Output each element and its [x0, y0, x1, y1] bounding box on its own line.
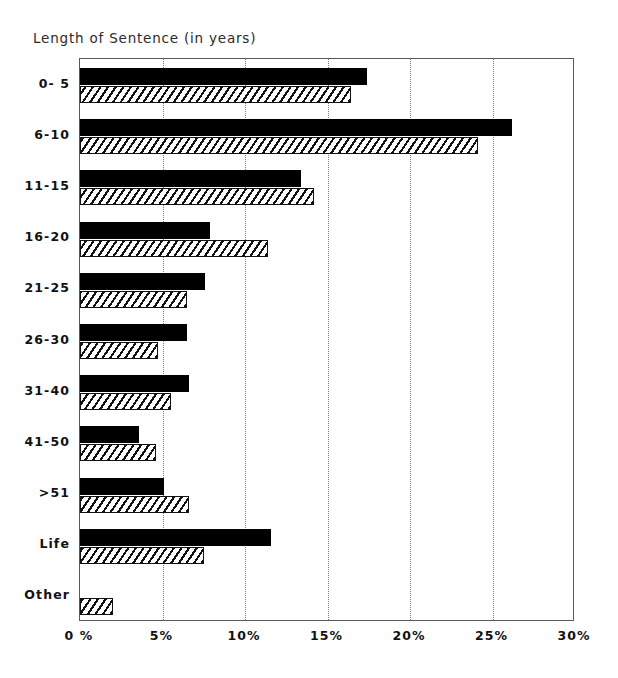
y-axis-tick-label: 11-15 [0, 178, 70, 193]
bar-series-hatched [80, 240, 268, 257]
bar-series-hatched [80, 291, 187, 308]
y-axis-tick-label: 21-25 [0, 280, 70, 295]
x-axis-tick-label: 25% [475, 628, 508, 643]
bar-series-solid [80, 375, 189, 392]
bar-chart: Length of Sentence (in years) 0- 56-1011… [0, 0, 618, 678]
bar-series-hatched [80, 137, 478, 154]
y-axis-tick-label: 6-10 [0, 127, 70, 142]
bar-series-hatched [80, 547, 204, 564]
x-axis-tick-label: 30% [557, 628, 590, 643]
bar-series-solid [80, 324, 187, 341]
bar-series-hatched [80, 444, 156, 461]
x-axis-tick-label: 0 % [65, 628, 94, 643]
plot-area [79, 58, 574, 621]
x-axis-tick-label: 10% [227, 628, 260, 643]
bar-series-hatched [80, 393, 171, 410]
y-axis-tick-label: >51 [0, 485, 70, 500]
y-axis-tick-label: 16-20 [0, 229, 70, 244]
bar-series-solid [80, 222, 210, 239]
bar-series-solid [80, 170, 301, 187]
bar-series-hatched [80, 188, 314, 205]
y-axis-labels: 0- 56-1011-1516-2021-2526-3031-4041-50>5… [0, 58, 70, 621]
x-axis-tick-label: 20% [392, 628, 425, 643]
x-axis-tick-label: 15% [310, 628, 343, 643]
bar-series-solid [80, 529, 271, 546]
y-axis-tick-label: 0- 5 [0, 76, 70, 91]
bar-series-solid [80, 478, 164, 495]
chart-title: Length of Sentence (in years) [33, 30, 256, 46]
bar-series-solid [80, 426, 139, 443]
y-axis-tick-label: Life [0, 536, 70, 551]
y-axis-tick-label: Other [0, 587, 70, 602]
bar-series-hatched [80, 496, 189, 513]
bar-series-hatched [80, 342, 158, 359]
bar-series-hatched [80, 598, 113, 615]
y-axis-tick-label: 41-50 [0, 434, 70, 449]
x-axis-labels: 0 %5%10%15%20%25%30% [79, 628, 574, 652]
bar-series-hatched [80, 86, 351, 103]
bars-layer [80, 59, 573, 620]
bar-series-solid [80, 68, 367, 85]
bar-series-solid [80, 273, 205, 290]
x-axis-tick-label: 5% [150, 628, 173, 643]
y-axis-tick-label: 31-40 [0, 383, 70, 398]
bar-series-solid [80, 119, 512, 136]
y-axis-tick-label: 26-30 [0, 332, 70, 347]
